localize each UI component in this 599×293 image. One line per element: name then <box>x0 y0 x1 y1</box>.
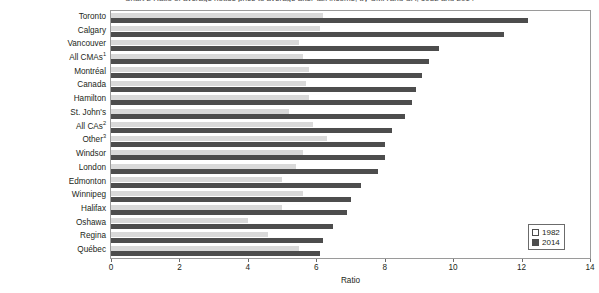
category-label-st-john-s: St. John's <box>70 108 106 117</box>
category-label-windsor: Windsor <box>76 149 106 158</box>
bar-1982-calgary <box>111 26 320 31</box>
x-tick-label-10: 10 <box>449 263 458 272</box>
bar-2014-halifax <box>111 210 347 215</box>
bar-2014-all-cas <box>111 128 392 133</box>
category-label-other: Other3 <box>82 135 106 144</box>
bar-2014-windsor <box>111 155 385 160</box>
bar-1982-regina <box>111 232 268 237</box>
category-label-toronto: Toronto <box>79 12 106 21</box>
category-label-halifax: Halifax <box>81 204 106 213</box>
bar-2014-montr-al <box>111 73 422 78</box>
bar-1982-oshawa <box>111 218 248 223</box>
footnote-marker: 1 <box>103 51 106 57</box>
bar-2014-calgary <box>111 32 504 37</box>
category-label-edmonton: Edmonton <box>69 177 106 186</box>
legend-swatch-1982 <box>532 229 539 236</box>
category-label-vancouver: Vancouver <box>67 39 106 48</box>
bar-2014-other <box>111 142 385 147</box>
footnote-marker: 2 <box>103 120 106 126</box>
legend-swatch-2014 <box>532 239 539 246</box>
bar-1982-toronto <box>111 13 323 18</box>
bar-1982-hamilton <box>111 95 309 100</box>
category-axis: TorontoCalgaryVancouverAll CMAs1Montréal… <box>0 10 108 259</box>
legend-item-2014: 2014 <box>532 237 560 247</box>
legend-item-1982: 1982 <box>532 227 560 237</box>
x-axis-label: Ratio <box>110 276 591 285</box>
x-tick-6 <box>316 259 317 262</box>
bar-2014-winnipeg <box>111 197 351 202</box>
x-tick-4 <box>248 259 249 262</box>
x-tick-2 <box>179 259 180 262</box>
bar-2014-regina <box>111 238 323 243</box>
x-tick-label-12: 12 <box>517 263 526 272</box>
bar-2014-oshawa <box>111 224 333 229</box>
category-label-all-cas: All CAs2 <box>76 122 106 131</box>
legend-label-1982: 1982 <box>542 228 560 237</box>
bar-2014-qu-bec <box>111 251 320 256</box>
x-tick-10 <box>453 259 454 262</box>
legend-label-2014: 2014 <box>542 238 560 247</box>
category-label-winnipeg: Winnipeg <box>72 190 106 199</box>
bar-1982-other <box>111 136 327 141</box>
x-tick-label-14: 14 <box>585 263 594 272</box>
footnote-marker: 3 <box>103 134 106 140</box>
category-label-canada: Canada <box>77 80 106 89</box>
bar-1982-all-cas <box>111 122 313 127</box>
x-tick-8 <box>385 259 386 262</box>
bar-2014-st-john-s <box>111 114 405 119</box>
bar-2014-edmonton <box>111 183 361 188</box>
bar-1982-qu-bec <box>111 246 299 251</box>
x-axis: 02468101214 <box>110 259 591 275</box>
category-label-all-cmas: All CMAs1 <box>69 53 106 62</box>
bar-1982-all-cmas <box>111 54 303 59</box>
category-label-london: London <box>79 163 106 172</box>
bar-2014-all-cmas <box>111 59 429 64</box>
bar-2014-canada <box>111 87 416 92</box>
bar-1982-vancouver <box>111 40 299 45</box>
chart-title: Chart 2 Ratio of average house price to … <box>0 0 599 2</box>
chart-legend: 19822014 <box>528 224 565 250</box>
bar-chart: Chart 2 Ratio of average house price to … <box>0 0 599 293</box>
category-label-regina: Regina <box>80 231 106 240</box>
bar-2014-london <box>111 169 378 174</box>
category-label-oshawa: Oshawa <box>76 218 106 227</box>
bar-1982-st-john-s <box>111 109 289 114</box>
category-label-montr-al: Montréal <box>74 67 106 76</box>
bar-1982-montr-al <box>111 67 309 72</box>
bar-2014-vancouver <box>111 46 439 51</box>
x-tick-label-4: 4 <box>246 263 251 272</box>
x-tick-0 <box>111 259 112 262</box>
x-tick-14 <box>590 259 591 262</box>
bar-1982-canada <box>111 81 306 86</box>
bar-1982-windsor <box>111 150 303 155</box>
category-label-calgary: Calgary <box>78 26 106 35</box>
category-label-qu-bec: Québec <box>77 245 106 254</box>
bar-1982-halifax <box>111 205 282 210</box>
bar-1982-london <box>111 164 296 169</box>
x-tick-label-8: 8 <box>382 263 387 272</box>
plot-area <box>110 10 591 259</box>
bar-2014-toronto <box>111 18 528 23</box>
category-label-hamilton: Hamilton <box>74 94 106 103</box>
x-tick-label-6: 6 <box>314 263 319 272</box>
x-tick-label-2: 2 <box>177 263 182 272</box>
x-tick-label-0: 0 <box>109 263 114 272</box>
bar-1982-winnipeg <box>111 191 303 196</box>
bar-2014-hamilton <box>111 100 412 105</box>
x-tick-12 <box>522 259 523 262</box>
bar-1982-edmonton <box>111 177 282 182</box>
